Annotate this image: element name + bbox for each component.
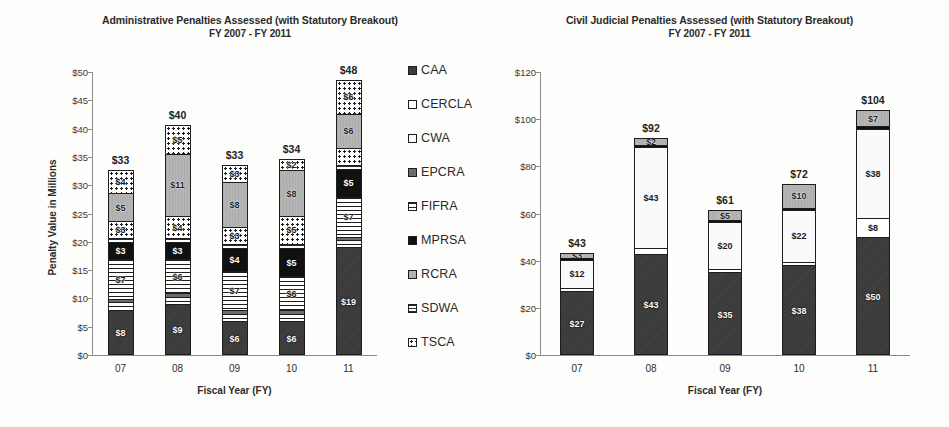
bar-segment-tsca[interactable] bbox=[337, 149, 361, 166]
segment-value-label: $43 bbox=[635, 194, 667, 203]
segment-value-label: $7 bbox=[337, 213, 361, 222]
bar-segment-rcra[interactable]: $6 bbox=[337, 115, 361, 149]
bar-segment-caa[interactable]: $38 bbox=[783, 266, 815, 355]
bar-segment-caa[interactable]: $9 bbox=[166, 305, 190, 355]
legend-item-tsca[interactable]: TSCA bbox=[408, 335, 455, 349]
legend-item-epcra[interactable]: EPCRA bbox=[408, 165, 465, 179]
segment-value-label: $2 bbox=[635, 139, 667, 146]
bar-segment-rcra[interactable]: $7 bbox=[857, 111, 889, 128]
bar-stack[interactable]: $2$8$5$5$6$6 bbox=[279, 159, 305, 355]
legend-item-sdwa[interactable]: SDWA bbox=[408, 301, 458, 315]
bar-segment-mprsa[interactable]: $5 bbox=[337, 170, 361, 198]
segment-value-label: $6 bbox=[337, 93, 361, 102]
segment-value-label: $12 bbox=[561, 270, 593, 279]
legend-swatch-tsca-icon bbox=[408, 338, 417, 347]
y-axis-tick-mark bbox=[536, 261, 540, 262]
bar-segment-cwa[interactable]: $38 bbox=[857, 130, 889, 220]
bar-segment-caa[interactable]: $27 bbox=[561, 292, 593, 355]
x-axis-tick-label: 09 bbox=[229, 363, 240, 374]
legend-label: EPCRA bbox=[421, 165, 465, 179]
bar-segment-rcra[interactable]: $11 bbox=[166, 155, 190, 217]
bar-total-label: $104 bbox=[861, 94, 884, 106]
segment-value-label: $10 bbox=[783, 192, 815, 201]
bar-segment-rcra[interactable]: $8 bbox=[223, 183, 247, 228]
bar-stack[interactable]: $5$20$35 bbox=[708, 210, 742, 355]
bar-segment-fifra[interactable]: $7 bbox=[109, 260, 133, 300]
bar-stack[interactable]: $5$11$4$3$6$9 bbox=[165, 125, 191, 355]
bar-segment-fifra[interactable]: $7 bbox=[337, 198, 361, 238]
bar-segment-tsca[interactable]: $6 bbox=[337, 81, 361, 115]
bar-segment-rcra[interactable]: $5 bbox=[109, 194, 133, 222]
bar-stack[interactable]: $3$12$27 bbox=[560, 253, 594, 355]
bar-segment-cercla[interactable]: $8 bbox=[857, 219, 889, 238]
bar-segment-caa[interactable]: $50 bbox=[857, 238, 889, 355]
bar-stack[interactable]: $2$43$43 bbox=[634, 138, 668, 355]
segment-value-label: $6 bbox=[280, 289, 304, 298]
x-axis-tick-label: 09 bbox=[719, 363, 730, 374]
bar-segment-cwa[interactable]: $12 bbox=[561, 261, 593, 289]
legend-item-cwa[interactable]: CWA bbox=[408, 131, 450, 145]
bar-segment-mprsa[interactable]: $3 bbox=[166, 243, 190, 260]
administrative-title-line2: FY 2007 - FY 2011 bbox=[0, 27, 500, 41]
segment-value-label: $8 bbox=[857, 224, 889, 233]
legend-label: SDWA bbox=[421, 301, 458, 315]
bar-total-label: $40 bbox=[169, 109, 187, 121]
legend-label: RCRA bbox=[421, 267, 457, 281]
bar-segment-tsca[interactable]: $2 bbox=[280, 160, 304, 171]
bar-segment-tsca[interactable]: $4 bbox=[166, 217, 190, 240]
segment-value-label: $19 bbox=[337, 298, 361, 307]
bar-segment-rcra[interactable]: $8 bbox=[280, 171, 304, 216]
bar-segment-caa[interactable]: $8 bbox=[109, 311, 133, 355]
civil-judicial-plot-area: $0$20$40$60$80$100$12007$3$12$27$4308$2$… bbox=[540, 72, 910, 355]
bar-segment-caa[interactable]: $43 bbox=[635, 255, 667, 355]
bar-segment-tsca[interactable]: $3 bbox=[223, 166, 247, 183]
y-axis-tick-mark bbox=[88, 129, 92, 130]
bar-stack[interactable]: $6$6$5$7$19 bbox=[336, 80, 362, 355]
bar-segment-fifra[interactable]: $7 bbox=[223, 272, 247, 312]
bar-segment-tsca[interactable]: $4 bbox=[109, 171, 133, 194]
bar-stack[interactable]: $3$8$3$4$7$6 bbox=[222, 165, 248, 355]
bar-segment-caa[interactable]: $6 bbox=[223, 322, 247, 355]
segment-value-label: $2 bbox=[280, 161, 304, 170]
bar-segment-rcra[interactable]: $2 bbox=[635, 139, 667, 146]
bar-segment-tsca[interactable]: $5 bbox=[280, 217, 304, 245]
x-axis-line bbox=[92, 355, 377, 356]
y-axis-tick-label: $40 bbox=[72, 123, 88, 134]
y-axis-tick-mark bbox=[88, 270, 92, 271]
bar-segment-tsca[interactable]: $5 bbox=[166, 126, 190, 154]
bar-stack[interactable]: $7$38$8$50 bbox=[856, 110, 890, 355]
segment-value-label: $3 bbox=[109, 247, 133, 256]
bar-segment-rcra[interactable]: $10 bbox=[783, 185, 815, 209]
bar-segment-rcra[interactable]: $5 bbox=[709, 211, 741, 220]
bar-segment-caa[interactable]: $19 bbox=[337, 248, 361, 355]
bar-segment-mprsa[interactable]: $5 bbox=[280, 249, 304, 277]
segment-value-label: $38 bbox=[857, 169, 889, 178]
segment-value-label: $7 bbox=[857, 114, 889, 123]
y-axis-tick-label: $80 bbox=[520, 161, 536, 172]
bar-segment-cwa[interactable]: $43 bbox=[635, 148, 667, 249]
segment-value-label: $6 bbox=[223, 334, 247, 343]
bar-segment-mprsa[interactable]: $3 bbox=[109, 243, 133, 260]
legend-item-fifra[interactable]: FIFRA bbox=[408, 199, 458, 213]
bar-segment-fifra[interactable]: $6 bbox=[166, 260, 190, 294]
bar-segment-cwa[interactable]: $22 bbox=[783, 211, 815, 263]
administrative-title-line1: Administrative Penalties Assessed (with … bbox=[102, 14, 398, 26]
bar-segment-caa[interactable]: $6 bbox=[280, 322, 304, 355]
bar-segment-tsca[interactable]: $3 bbox=[109, 222, 133, 239]
bar-segment-tsca[interactable]: $3 bbox=[223, 228, 247, 245]
bar-segment-fifra[interactable]: $6 bbox=[280, 277, 304, 311]
legend-item-rcra[interactable]: RCRA bbox=[408, 267, 457, 281]
legend-swatch-epcra-icon bbox=[408, 168, 417, 177]
bar-stack[interactable]: $10$22$38 bbox=[782, 184, 816, 355]
x-axis-line bbox=[540, 355, 910, 356]
y-axis-tick-mark bbox=[536, 355, 540, 356]
legend-item-caa[interactable]: CAA bbox=[408, 63, 447, 77]
bar-segment-cwa[interactable]: $20 bbox=[709, 223, 741, 270]
legend-item-mprsa[interactable]: MPRSA bbox=[408, 233, 466, 247]
bar-segment-mprsa[interactable]: $4 bbox=[223, 249, 247, 272]
bar-segment-caa[interactable]: $35 bbox=[709, 273, 741, 355]
bar-stack[interactable]: $4$5$3$3$7$8 bbox=[108, 170, 134, 355]
administrative-x-axis-title: Fiscal Year (FY) bbox=[92, 385, 377, 396]
segment-value-label: $5 bbox=[280, 258, 304, 267]
legend-item-cercla[interactable]: CERCLA bbox=[408, 97, 472, 111]
